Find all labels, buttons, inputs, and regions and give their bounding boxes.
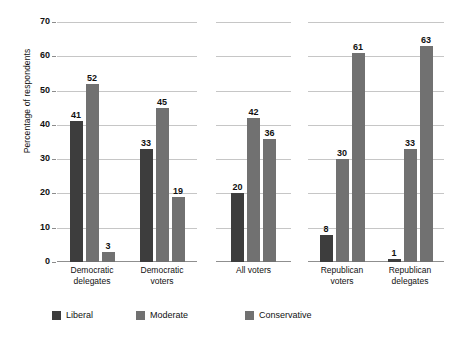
bar-value-label: 3: [105, 242, 110, 251]
bar-value-label: 42: [248, 108, 258, 117]
y-tick-mark: [52, 262, 56, 263]
bar-group: 13363Republican delegates: [376, 22, 444, 262]
legend-swatch-icon: [136, 311, 145, 320]
x-axis-group-label: Democratic voters: [125, 265, 199, 287]
bar-value-label: 33: [141, 139, 151, 148]
bar-value-label: 41: [71, 111, 81, 120]
y-tick-label: 70: [28, 17, 50, 26]
bar[interactable]: 42: [247, 118, 260, 262]
y-tick-label: 0: [28, 257, 50, 266]
bar[interactable]: 41: [70, 121, 83, 262]
panel-republicans: 83061Republican voters13363Republican de…: [308, 22, 444, 262]
y-tick-mark: [52, 125, 56, 126]
bar[interactable]: 19: [172, 197, 185, 262]
bar-area: 83061Republican voters13363Republican de…: [308, 22, 444, 262]
bar-group: 83061Republican voters: [308, 22, 376, 262]
legend-item[interactable]: Conservative: [245, 310, 312, 320]
legend-label: Liberal: [66, 310, 93, 320]
panel-all-voters: 204236All voters: [216, 22, 291, 262]
bar-value-label: 20: [232, 183, 242, 192]
legend-item[interactable]: Liberal: [52, 310, 93, 320]
bar[interactable]: 52: [86, 84, 99, 262]
y-tick-label: 50: [28, 86, 50, 95]
legend-label: Conservative: [259, 310, 312, 320]
legend-label: Moderate: [150, 310, 188, 320]
chart-legend: LiberalModerateConservative: [0, 310, 453, 330]
bar-value-label: 30: [337, 149, 347, 158]
bar[interactable]: 30: [336, 159, 349, 262]
bar-group: 334519Democratic voters: [127, 22, 197, 262]
bar[interactable]: 8: [320, 235, 333, 262]
bar-value-label: 36: [264, 129, 274, 138]
legend-swatch-icon: [52, 311, 61, 320]
bar[interactable]: 33: [404, 149, 417, 262]
x-axis-group-label: Democratic delegates: [55, 265, 129, 287]
bar-value-label: 61: [353, 43, 363, 52]
y-tick-mark: [52, 193, 56, 194]
y-tick-mark: [52, 91, 56, 92]
bar-value-label: 19: [173, 187, 183, 196]
bar-chart: Percentage of respondents 01020304050607…: [0, 0, 453, 342]
bar-area: 204236All voters: [216, 22, 291, 262]
bar-value-label: 45: [157, 98, 167, 107]
bar-group: 41523Democratic delegates: [57, 22, 127, 262]
legend-item[interactable]: Moderate: [136, 310, 188, 320]
bar-group: 204236All voters: [216, 22, 291, 262]
bar-value-label: 8: [323, 225, 328, 234]
panel-democrats: 41523Democratic delegates334519Democrati…: [57, 22, 197, 262]
bar-area: 41523Democratic delegates334519Democrati…: [57, 22, 197, 262]
bar[interactable]: 45: [156, 108, 169, 262]
y-tick-label: 60: [28, 51, 50, 60]
x-axis-group-label: Republican voters: [305, 265, 379, 287]
bar[interactable]: 36: [263, 139, 276, 262]
y-tick-label: 30: [28, 154, 50, 163]
bar[interactable]: 20: [231, 193, 244, 262]
bar-value-label: 63: [421, 36, 431, 45]
bar[interactable]: 61: [352, 53, 365, 262]
bar[interactable]: 63: [420, 46, 433, 262]
y-tick-mark: [52, 56, 56, 57]
y-tick-label: 20: [28, 188, 50, 197]
y-tick-mark: [52, 22, 56, 23]
y-tick-mark: [52, 159, 56, 160]
x-axis-group-label: All voters: [217, 265, 291, 276]
bar-value-label: 33: [405, 139, 415, 148]
legend-swatch-icon: [245, 311, 254, 320]
bar[interactable]: 1: [388, 259, 401, 262]
y-tick-mark: [52, 228, 56, 229]
x-axis-group-label: Republican delegates: [373, 265, 447, 287]
y-axis-title: Percentage of respondents: [22, 6, 32, 196]
y-tick-label: 40: [28, 120, 50, 129]
bar[interactable]: 3: [102, 252, 115, 262]
bar-value-label: 1: [391, 249, 396, 258]
bar-value-label: 52: [87, 74, 97, 83]
y-tick-label: 10: [28, 223, 50, 232]
bar[interactable]: 33: [140, 149, 153, 262]
